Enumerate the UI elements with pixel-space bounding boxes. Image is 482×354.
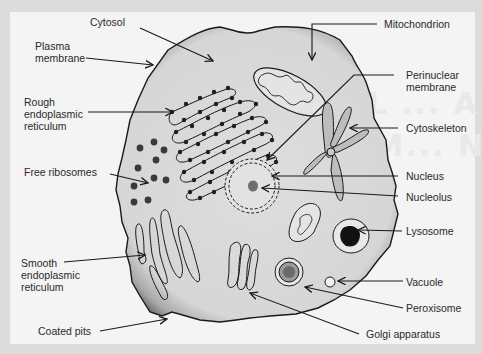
label-peroxisome: Peroxisome <box>406 302 461 314</box>
label-lysosome: Lysosome <box>406 225 453 237</box>
label-cytoskeleton: Cytoskeleton <box>406 122 467 134</box>
label-cytosol: Cytosol <box>90 16 125 28</box>
label-coated-pits: Coated pits <box>38 325 91 337</box>
label-mitochondrion: Mitochondrion <box>384 18 450 30</box>
vacuole <box>325 277 335 287</box>
lysosome <box>333 219 369 253</box>
label-smooth-er: Smooth endoplasmic reticulum <box>21 257 80 293</box>
label-nucleus: Nucleus <box>406 170 444 182</box>
nucleolus <box>248 181 258 192</box>
peroxisome <box>275 258 303 286</box>
label-free-ribosomes: Free ribosomes <box>24 166 97 178</box>
nucleus <box>225 159 279 213</box>
label-vacuole: Vacuole <box>406 276 443 288</box>
label-perinuclear-membrane: Perinuclear membrane <box>406 69 459 93</box>
label-rough-er: Rough endoplasmic reticulum <box>24 96 83 132</box>
label-golgi-apparatus: Golgi apparatus <box>366 328 440 340</box>
label-plasma-membrane: Plasma membrane <box>35 40 85 64</box>
label-nucleolus: Nucleolus <box>406 191 452 203</box>
